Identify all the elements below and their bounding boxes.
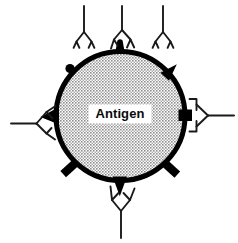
- epitope-knob-upper-left-icon: [65, 64, 74, 73]
- antibody-tip-upper: [190, 99, 197, 110]
- figure-canvas: Antigen: [0, 0, 238, 243]
- antibody-arm-left: [77, 32, 85, 42]
- antibody-bottom[interactable]: [111, 187, 135, 239]
- antibody-tip-left: [153, 42, 159, 48]
- antigen-epitope-diagram: Antigen: [0, 0, 238, 243]
- antigen-label: Antigen: [89, 105, 152, 124]
- antibody-arm-lower: [197, 116, 209, 127]
- antibody-left[interactable]: [11, 106, 56, 140]
- antibody-tip-right: [124, 189, 135, 201]
- antibody-arm-right: [121, 200, 130, 211]
- antibody-right[interactable]: [190, 99, 235, 132]
- antibody-top-right[interactable]: [153, 6, 174, 48]
- antibody-tip-lower: [47, 128, 56, 140]
- antibody-arm-right: [84, 32, 92, 42]
- antibody-arm-right: [122, 30, 131, 40]
- antibody-arm-lower: [37, 124, 47, 134]
- antibody-tip-left: [74, 42, 80, 48]
- antibody-tip-right: [168, 42, 174, 48]
- antibody-arm-right: [163, 32, 171, 42]
- antibody-arm-left: [114, 30, 122, 40]
- antibody-top-left[interactable]: [74, 6, 95, 48]
- epitope-block-right-icon: [179, 110, 193, 122]
- antibody-arm-left: [156, 32, 164, 42]
- antibody-tip-right: [127, 40, 134, 48]
- antibody-tip-lower: [190, 121, 197, 132]
- antibody-tip-right: [89, 42, 95, 48]
- antibody-arm-left: [112, 200, 121, 211]
- antigen-label-text: Antigen: [95, 106, 144, 121]
- antibody-arm-upper: [197, 105, 209, 116]
